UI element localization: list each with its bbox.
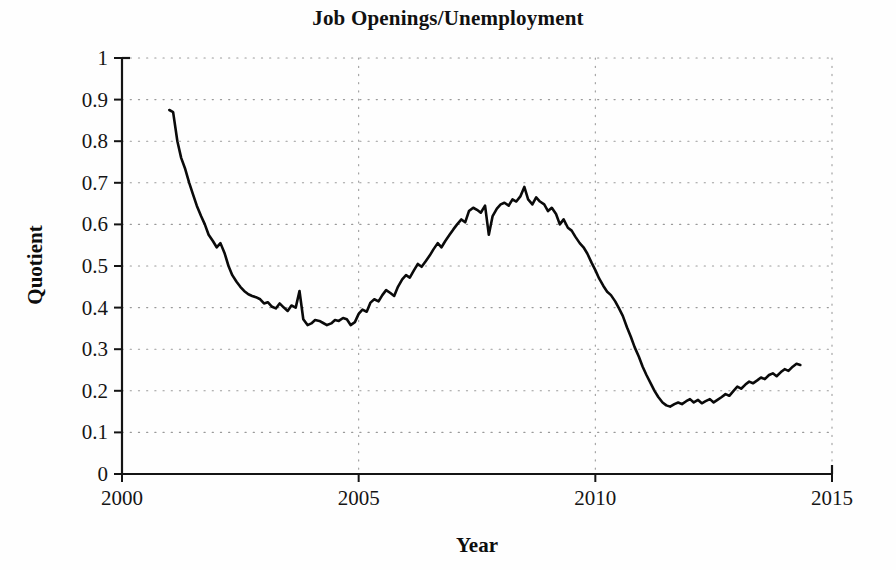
- tick-labels: 00.10.20.30.40.50.60.70.80.9120002005201…: [82, 46, 853, 510]
- y-tick-label: 0.5: [82, 254, 108, 278]
- y-tick-label: 0.7: [82, 171, 108, 195]
- line-chart: 00.10.20.30.40.50.60.70.80.9120002005201…: [0, 0, 896, 570]
- y-tick-label: 1: [98, 46, 109, 70]
- y-tick-label: 0.9: [82, 88, 108, 112]
- x-tick-label: 2010: [574, 486, 616, 510]
- tick-marks: [114, 58, 832, 482]
- x-tick-label: 2005: [338, 486, 380, 510]
- chart-page: Job Openings/Unemployment 00.10.20.30.40…: [0, 0, 896, 570]
- series-line: [169, 110, 800, 407]
- x-tick-label: 2000: [101, 486, 143, 510]
- y-tick-label: 0.6: [82, 212, 108, 236]
- x-axis-title: Year: [456, 533, 498, 557]
- y-tick-label: 0.8: [82, 129, 108, 153]
- y-axis-title: Quotient: [23, 225, 47, 304]
- y-tick-label: 0.3: [82, 337, 108, 361]
- x-tick-label: 2015: [811, 486, 853, 510]
- y-tick-label: 0.2: [82, 379, 108, 403]
- y-tick-label: 0.4: [82, 296, 109, 320]
- y-tick-label: 0.1: [82, 420, 108, 444]
- y-tick-label: 0: [98, 462, 109, 486]
- data-series: [169, 110, 800, 407]
